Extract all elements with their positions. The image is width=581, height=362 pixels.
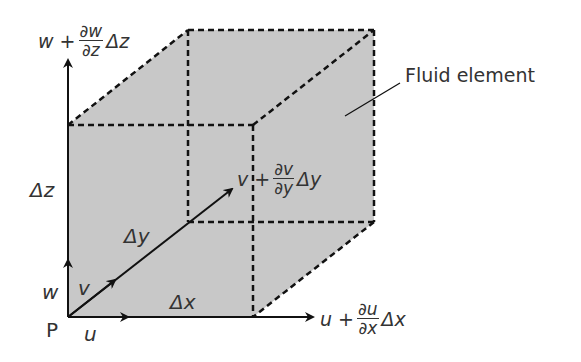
point-p-label: P	[46, 318, 58, 342]
dz-label: Δz	[30, 178, 54, 202]
v-label: v	[78, 276, 90, 300]
fluid-element-label: Fluid element	[405, 64, 535, 86]
u-label: u	[84, 322, 97, 346]
w-out-expression: w + ∂w∂z Δz	[38, 22, 129, 59]
w-label: w	[42, 280, 58, 304]
fluid-element-fill	[68, 30, 374, 317]
v-out-expression: v + ∂v∂y Δy	[237, 160, 321, 197]
u-out-expression: u + ∂u∂x Δx	[320, 300, 406, 337]
dx-label: Δx	[170, 290, 196, 314]
dy-label: Δy	[124, 224, 150, 248]
